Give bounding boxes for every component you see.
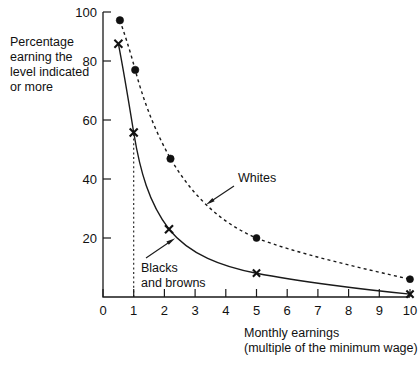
x-axis-title-line2: (multiple of the minimum wage): [244, 341, 418, 355]
y-axis-title-line1: Percentage: [10, 35, 74, 49]
data-point-whites: [132, 66, 139, 73]
data-point-whites: [407, 276, 414, 283]
y-axis-title-line3: level indicated: [10, 65, 89, 79]
x-tick-label: 10: [403, 303, 417, 318]
annotation-blacks-line1: Blacks: [141, 261, 178, 275]
chart-container: 100 80 60 40 20 0 1 2 3 4 5 6 7 8 9 10 P…: [0, 0, 420, 368]
x-tick-label: 2: [161, 303, 168, 318]
data-point-whites: [253, 235, 260, 242]
annotation-whites-label: Whites: [238, 171, 276, 185]
x-tick-label: 9: [376, 303, 383, 318]
y-tick-label: 20: [83, 231, 97, 246]
x-tick-label: 3: [191, 303, 198, 318]
x-tick-label: 6: [284, 303, 291, 318]
y-tick-label: 100: [75, 5, 97, 20]
earnings-distribution-chart: 100 80 60 40 20 0 1 2 3 4 5 6 7 8 9 10 P…: [0, 0, 420, 368]
x-tick-label: 1: [130, 303, 137, 318]
x-tick-label: 0: [99, 303, 106, 318]
y-axis-title-line4: or more: [10, 80, 53, 94]
annotation-blacks-line2: and browns: [141, 276, 206, 290]
y-axis-title-line2: earning the: [10, 50, 73, 64]
x-tick-label: 7: [314, 303, 321, 318]
x-tick-label: 8: [345, 303, 352, 318]
x-tick-label: 5: [253, 303, 260, 318]
x-tick-label: 4: [222, 303, 229, 318]
data-point-whites: [116, 17, 123, 24]
y-tick-label: 40: [83, 172, 97, 187]
x-axis-title-line1: Monthly earnings: [244, 326, 339, 340]
data-point-whites: [167, 155, 174, 162]
y-tick-label: 60: [83, 113, 97, 128]
